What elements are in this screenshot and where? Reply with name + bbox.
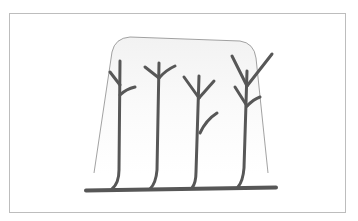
shoot-diagram: [0, 0, 358, 221]
